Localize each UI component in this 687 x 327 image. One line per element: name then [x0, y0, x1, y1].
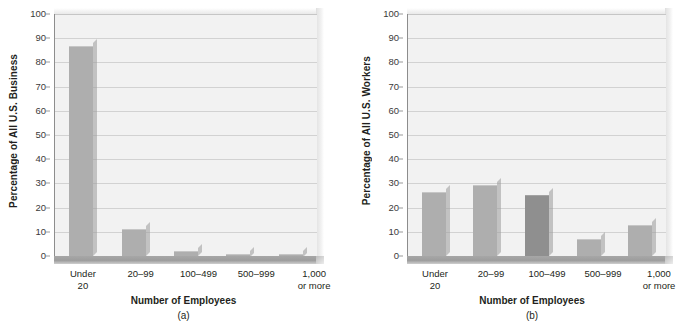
y-axis-tick-label: 60 [35, 106, 46, 116]
x-axis-tick-label-line1: 500–999 [585, 268, 622, 279]
x-axis-tick-label-line2: or more [629, 280, 687, 292]
y-axis-tick-label: 20 [388, 203, 399, 213]
two-panel-bar-chart-figure: Percentage of All U.S. Business 01020304… [0, 0, 687, 327]
bars-a [55, 14, 317, 256]
x-axis-tick-label: 100–499 [169, 268, 229, 280]
bars-b [408, 14, 666, 256]
x-axis-tick-label-line1: 1,000 [647, 268, 671, 279]
y-axis-tick-label: 90 [388, 33, 399, 43]
x-axis-title-a: Number of Employees [24, 295, 343, 306]
x-axis-tick-label: 500–999 [573, 268, 633, 280]
y-axis-tick-label: 90 [35, 33, 46, 43]
y-axis-tick-label: 40 [388, 154, 399, 164]
y-axis-tick-mark [46, 135, 50, 136]
bar [69, 46, 93, 256]
y-axis-tick-label: 80 [388, 58, 399, 68]
x-axis-tick-label-line2: 20 [53, 280, 113, 292]
x-axis-tick-label-line1: 500–999 [238, 268, 275, 279]
y-axis-tick-label: 70 [388, 82, 399, 92]
x-axis-tick-label: 500–999 [226, 268, 286, 280]
y-axis-tick-label: 100 [30, 9, 46, 19]
bar [628, 225, 652, 256]
y-axis-tick-mark [46, 256, 50, 257]
plot-floor-front-b [407, 256, 666, 264]
x-axis-tick-label: 20–99 [111, 268, 171, 280]
y-axis-tick-mark [46, 110, 50, 111]
y-axis-tick-label: 30 [388, 179, 399, 189]
x-axis-tick-label: Under20 [53, 268, 113, 291]
x-axis-tick-label: 1,000or more [284, 268, 344, 291]
plot-area-a: 0102030405060708090100 [24, 8, 324, 270]
y-axis-tick-label: 70 [35, 82, 46, 92]
y-axis-tick-mark [46, 207, 50, 208]
x-axis-tick-label-line1: Under [70, 268, 96, 279]
x-axis-tick-label-line1: 20–99 [478, 268, 504, 279]
y-axis-tick-label: 10 [35, 227, 46, 237]
y-axis-tick-mark [399, 183, 403, 184]
plot-floor-wedge-a [316, 256, 324, 264]
y-axis-tick-label: 80 [35, 58, 46, 68]
y-axis-tick-label: 50 [35, 130, 46, 140]
y-axis-tick-mark [46, 86, 50, 87]
panel-caption-a: (a) [24, 310, 343, 321]
bar [525, 195, 549, 256]
plot-face-a [54, 14, 317, 256]
y-axis-ticks-a: 0102030405060708090100 [24, 8, 50, 256]
x-axis-tick-label: 100–499 [517, 268, 577, 280]
y-axis-tick-label: 40 [35, 154, 46, 164]
y-axis-tick-mark [46, 183, 50, 184]
x-axis-tick-label-line1: 100–499 [529, 268, 566, 279]
y-axis-tick-mark [46, 159, 50, 160]
y-axis-tick-label: 50 [388, 130, 399, 140]
x-axis-tick-label-line2: 20 [405, 280, 465, 292]
chart-panel-a: Percentage of All U.S. Business 01020304… [0, 0, 343, 327]
plot-floor-front-a [54, 256, 317, 264]
y-axis-tick-label: 10 [388, 227, 399, 237]
y-axis-tick-label: 100 [383, 9, 399, 19]
plot-area-b: 0102030405060708090100 [377, 8, 673, 270]
panel-caption-b: (b) [377, 310, 687, 321]
x-axis-tick-label: 20–99 [461, 268, 521, 280]
plot-depth-right-b [665, 8, 673, 256]
plot-face-b [407, 14, 666, 256]
y-axis-tick-mark [399, 207, 403, 208]
y-axis-title-text-b: Percentage of All U.S. Workers [361, 56, 372, 205]
x-axis-tick-label-line1: 20–99 [127, 268, 153, 279]
y-axis-tick-mark [46, 231, 50, 232]
x-axis-tick-label-line1: Under [422, 268, 448, 279]
y-axis-tick-mark [399, 231, 403, 232]
x-axis-title-b: Number of Employees [377, 295, 687, 306]
plot-3d-body-b [407, 8, 673, 256]
x-axis-tick-label: 1,000or more [629, 268, 687, 291]
y-axis-title-b: Percentage of All U.S. Workers [355, 0, 377, 262]
x-axis-tick-label-line1: 100–499 [180, 268, 217, 279]
plot-floor-b [407, 256, 673, 265]
y-axis-tick-label: 60 [388, 106, 399, 116]
bar [577, 239, 601, 256]
y-axis-tick-mark [399, 86, 403, 87]
y-axis-tick-mark [46, 62, 50, 63]
x-axis-tick-label-line1: 1,000 [302, 268, 326, 279]
y-axis-tick-label: 20 [35, 203, 46, 213]
bar [422, 192, 446, 256]
y-axis-title-a: Percentage of All U.S. Business [2, 0, 24, 262]
x-axis-tick-label: Under20 [405, 268, 465, 291]
y-axis-tick-mark [399, 62, 403, 63]
y-axis-tick-mark [399, 110, 403, 111]
chart-panel-b: Percentage of All U.S. Workers 010203040… [343, 0, 687, 327]
plot-depth-right-a [316, 8, 324, 256]
plot-floor-a [54, 256, 324, 265]
y-axis-tick-mark [399, 159, 403, 160]
plot-3d-body-a [54, 8, 324, 256]
y-axis-tick-mark [399, 38, 403, 39]
y-axis-title-text-a: Percentage of All U.S. Business [8, 54, 19, 208]
y-axis-tick-label: 30 [35, 179, 46, 189]
y-axis-tick-mark [46, 38, 50, 39]
y-axis-tick-mark [399, 135, 403, 136]
y-axis-ticks-b: 0102030405060708090100 [377, 8, 403, 256]
x-axis-tick-label-line2: or more [284, 280, 344, 292]
y-axis-tick-mark [399, 256, 403, 257]
y-axis-tick-mark [46, 14, 50, 15]
y-axis-tick-mark [399, 14, 403, 15]
bar [473, 185, 497, 256]
